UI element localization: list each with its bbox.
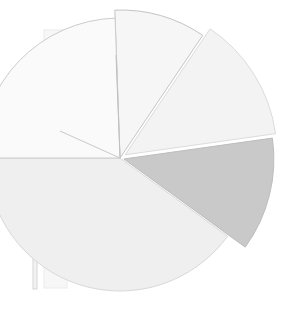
- figure-canvas: [0, 0, 298, 317]
- pie-chart: [0, 0, 298, 317]
